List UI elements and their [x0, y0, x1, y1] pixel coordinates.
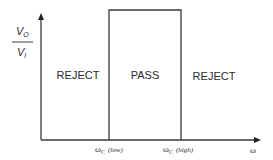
region-pass: PASS: [131, 69, 160, 81]
region-left-reject: REJECT: [57, 69, 100, 81]
vi-denominator: VI: [17, 46, 26, 59]
y-axis-label: VO VI: [12, 25, 33, 59]
bandpass-diagram: VO VI REJECT PASS REJECT ωC(low) ωC(high…: [0, 0, 273, 160]
x-axis-arrow-icon: [254, 137, 261, 143]
vo-numerator: VO: [16, 25, 29, 38]
cutoff-high-label: ωC(high): [163, 144, 194, 155]
region-right-reject: REJECT: [193, 70, 236, 82]
y-axis-arrow-icon: [38, 13, 44, 20]
x-axis-label: ω: [250, 145, 256, 155]
cutoff-low-label: ωC(low): [95, 144, 123, 155]
